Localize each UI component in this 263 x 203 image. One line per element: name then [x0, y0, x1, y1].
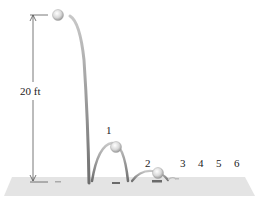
bounce-label-6: 6 [234, 158, 240, 169]
bounce-label-1: 1 [106, 125, 112, 136]
bouncing-ball-diagram: 20 ft 1 2 3 4 5 6 [0, 0, 263, 203]
diagram-graphic [0, 0, 263, 203]
bounce-label-2: 2 [145, 158, 151, 169]
bounce-1-path [92, 143, 128, 181]
floor-surface [4, 177, 255, 196]
height-label: 20 ft [20, 86, 40, 97]
bounce-label-4: 4 [198, 158, 204, 169]
height-dimension-line [30, 15, 48, 182]
ball-start [53, 10, 64, 21]
ball-bounce-1 [111, 142, 122, 153]
bounce-label-3: 3 [180, 158, 186, 169]
bounce-label-5: 5 [216, 158, 222, 169]
ball-bounce-2 [153, 168, 164, 179]
drop-path [70, 16, 89, 183]
